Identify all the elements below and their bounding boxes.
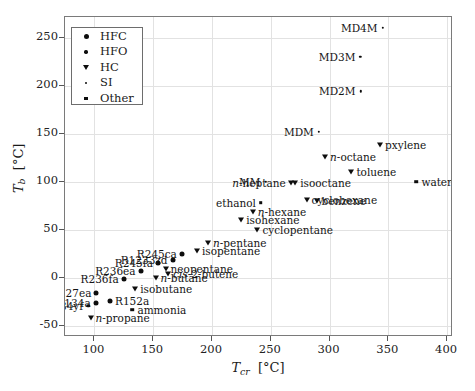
legend-item-hfc[interactable]: HFC <box>72 29 142 45</box>
data-point-marker-toluene <box>348 169 354 174</box>
legend-label-si: SI <box>100 77 112 89</box>
data-point-marker-MDM <box>318 130 320 132</box>
y-axis-tick <box>59 277 64 278</box>
legend-marker-hfc <box>72 34 100 39</box>
legend-marker-other <box>72 97 100 101</box>
data-point-label-pxylene: pxylene <box>385 140 426 151</box>
x-axis-tick <box>270 336 271 341</box>
x-axis-title: Tcr [°C] <box>64 360 452 377</box>
data-point-label-R1233zd: R1233zd <box>121 255 168 266</box>
data-point-marker-R227ea <box>94 291 99 296</box>
x-axis-tick-label: 200 <box>200 344 222 356</box>
data-point-marker-R245ca <box>179 251 184 256</box>
data-point-marker-n-heptane <box>288 181 294 186</box>
y-axis-tick <box>59 85 64 86</box>
data-point-label-R1234yf: R1234yf <box>64 301 83 312</box>
square-icon <box>84 97 88 101</box>
y-axis-tick <box>59 229 64 230</box>
data-point-marker-R152a <box>108 298 113 303</box>
data-point-label-ethanol: ethanol <box>216 197 256 208</box>
data-point-marker-MD2M <box>359 90 361 92</box>
legend-item-hc[interactable]: HC <box>72 60 142 76</box>
data-point-label-isobutane: isobutane <box>140 284 192 295</box>
legend-label-hfc: HFC <box>100 31 127 43</box>
data-point-marker-MD4M <box>381 27 383 29</box>
data-point-marker-n-octane <box>322 155 328 160</box>
x-axis-tick-label: 250 <box>259 344 281 356</box>
scatter-chart-figure: R245caR245faR236eaR236faR227eaR134aR152a… <box>0 0 475 391</box>
data-point-label-isooctane: isooctane <box>300 177 351 188</box>
triangle-down-icon <box>83 65 89 70</box>
data-point-label-benzene: benzene <box>322 196 366 207</box>
legend-marker-hc <box>72 65 100 70</box>
data-point-label-R236fa: R236fa <box>81 274 119 285</box>
data-point-label-MDM: MDM <box>284 126 314 137</box>
data-point-marker-pxylene <box>377 143 383 148</box>
y-axis-title: Tb [°C] <box>11 123 28 213</box>
x-axis-tick-label: 400 <box>435 344 457 356</box>
x-axis-tick-label: 150 <box>141 344 163 356</box>
data-point-marker-cyclohexane <box>304 198 310 203</box>
x-axis-tick <box>211 336 212 341</box>
data-point-label-cyclopentane: cyclopentane <box>262 225 333 236</box>
data-point-marker-n-propane <box>88 315 94 320</box>
legend: HFCHFOHCSIOther <box>71 27 143 105</box>
y-axis-tick-label: 250 <box>36 31 58 43</box>
data-point-label-MD4M: MD4M <box>341 23 378 34</box>
y-axis-tick <box>59 37 64 38</box>
x-axis-tick <box>152 336 153 341</box>
data-point-marker-n-butane <box>153 276 159 281</box>
data-point-marker-neopentane <box>163 266 169 271</box>
data-point-label-ammonia: ammonia <box>137 304 186 315</box>
x-axis-tick-label: 100 <box>82 344 104 356</box>
legend-label-hfo: HFO <box>100 46 127 58</box>
data-point-label-water: water <box>421 177 452 188</box>
data-point-marker-R236ea <box>138 269 143 274</box>
legend-item-si[interactable]: SI <box>72 75 142 91</box>
data-point-marker-R236fa <box>121 276 126 281</box>
gridline-vertical <box>271 17 272 335</box>
legend-marker-hfo <box>72 50 100 53</box>
y-axis-tick <box>59 181 64 182</box>
data-point-label-n-octane: n-octane <box>330 152 376 163</box>
x-axis-tick <box>93 336 94 341</box>
data-point-marker-ethanol <box>259 201 263 205</box>
gridline-vertical <box>212 17 213 335</box>
data-point-label-MD3M: MD3M <box>319 51 356 62</box>
y-axis-tick-label: 100 <box>36 175 58 187</box>
legend-item-hfo[interactable]: HFO <box>72 44 142 60</box>
data-point-marker-R134a <box>93 300 98 305</box>
circle-lg-icon <box>84 34 89 39</box>
x-axis-tick <box>329 336 330 341</box>
x-axis-tick <box>387 336 388 341</box>
x-axis-tick-label: 350 <box>376 344 398 356</box>
x-axis-tick-label: 300 <box>318 344 340 356</box>
legend-marker-si <box>72 82 100 84</box>
data-point-marker-MD3M <box>359 55 361 57</box>
legend-label-other: Other <box>100 93 134 105</box>
y-axis-tick-label: 50 <box>43 223 58 235</box>
data-point-marker-water <box>415 180 419 184</box>
data-point-marker-isohexane <box>238 217 244 222</box>
y-axis-tick-label: 200 <box>36 79 58 91</box>
legend-item-other[interactable]: Other <box>72 91 142 107</box>
y-axis-tick <box>59 325 64 326</box>
data-point-label-toluene: toluene <box>356 166 396 177</box>
data-point-marker-cyclopentane <box>254 228 260 233</box>
data-point-label-MD2M: MD2M <box>319 86 356 97</box>
y-axis-tick-label: -50 <box>39 319 58 331</box>
circle-sm-icon <box>84 50 87 53</box>
dot-icon <box>85 82 87 84</box>
gridline-horizontal <box>65 326 451 327</box>
data-point-marker-isobutane <box>132 286 138 291</box>
y-axis-tick-label: 0 <box>51 271 58 283</box>
y-axis-tick-label: 150 <box>36 127 58 139</box>
data-point-label-isopentane: isopentane <box>202 246 260 257</box>
data-point-label-MM: MM <box>239 176 261 187</box>
legend-label-hc: HC <box>100 62 119 74</box>
y-axis-tick <box>59 133 64 134</box>
data-point-marker-isopentane <box>194 248 200 253</box>
gridline-horizontal <box>65 134 451 135</box>
x-axis-tick <box>446 336 447 341</box>
